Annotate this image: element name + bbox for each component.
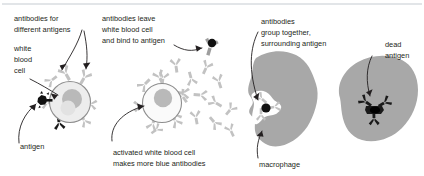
caption-antibodies-group-line1: antibodies (261, 17, 295, 26)
caption-activated-cell-line1: activated white blood cell (113, 148, 196, 157)
caption-white-blood-cell-line1: white (13, 44, 31, 53)
caption-antibodies-leave-line2: white blood cell (101, 25, 153, 34)
caption-antibodies-leave-line1: antibodies leave (102, 14, 155, 23)
antibody-icon (222, 101, 239, 118)
panel-dead-antigen (339, 56, 418, 142)
antibody-icon (169, 58, 182, 74)
caption-dead-antigen-line2: antigen (385, 51, 409, 60)
caption-antibodies-leave-line3: and bind to antigen (102, 36, 165, 45)
antibody-bound-antigen (201, 37, 219, 57)
caption-antibodies-group-line3: surrounding antigen (261, 39, 326, 48)
antigen-dot (261, 103, 270, 112)
cytoplasm-shading (61, 101, 76, 116)
antibody-icon (223, 123, 238, 139)
caption-activated-cell-line2: makes more blue antibodies (113, 159, 206, 168)
antibody-icon (57, 64, 75, 83)
macrophage-body (339, 56, 418, 142)
panel-macrophage (248, 51, 317, 146)
caption-antibodies-different-antigens-line2: different antigens (14, 25, 71, 34)
caption-dead-antigen-line1: dead (385, 40, 401, 49)
antibody-icon (193, 89, 208, 101)
antibody-icon (206, 113, 223, 131)
caption-antibodies-group-line2: group together, (261, 28, 311, 37)
caption-antibodies-different-antigens-line1: antibodies for (14, 14, 59, 23)
antibody-icon (211, 73, 226, 90)
dead-antigen-core (370, 106, 380, 113)
caption-white-blood-cell-line2: blood (14, 55, 32, 64)
antigen-dot (208, 39, 216, 47)
immune-response-diagram: antibodies for different antigens white … (0, 0, 424, 176)
antibody-icon (189, 110, 202, 126)
panel-white-blood-cell (37, 64, 97, 131)
caption-white-blood-cell-line3: cell (14, 66, 25, 75)
caption-macrophage: macrophage (259, 160, 300, 169)
antibody-icon (184, 70, 198, 86)
caption-antigen: antigen (20, 142, 44, 151)
activated-cell-nucleus (154, 89, 172, 107)
antibody-icon (207, 94, 225, 111)
panel-activated-cell (133, 58, 239, 139)
antibody-icon (198, 59, 214, 76)
